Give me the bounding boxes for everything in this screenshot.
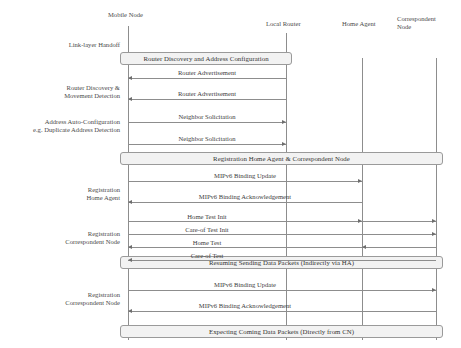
msg-neighbor-solicitation-2-label: Neighbor Solicitation bbox=[117, 135, 297, 142]
box-registration-ha-cn-label: Registration Home Agent & Correspondent … bbox=[213, 155, 350, 162]
msg-care-of-test-label: Care-of Test bbox=[117, 252, 297, 259]
box-expecting-data-label: Expecting Coming Data Packets (Directly … bbox=[209, 328, 354, 335]
lifeline-lr bbox=[286, 33, 287, 340]
msg-binding-update-ha-line bbox=[128, 181, 362, 182]
msg-care-of-test-init-label: Care-of Test Init bbox=[117, 226, 297, 233]
msg-router-advertisement-1-label: Router Advertisement bbox=[117, 69, 297, 76]
lifeline-header-mn: Mobile Node bbox=[108, 11, 143, 19]
msg-binding-update-cn-label: MIPv6 Binding Update bbox=[155, 281, 335, 288]
box-router-discovery: Router Discovery and Address Configurati… bbox=[120, 52, 292, 65]
msg-binding-update-cn-line bbox=[128, 290, 436, 291]
msg-binding-update-cn-arrowhead bbox=[432, 288, 436, 292]
msg-router-advertisement-2-line bbox=[128, 99, 286, 100]
box-registration-ha-cn: Registration Home Agent & Correspondent … bbox=[120, 152, 443, 165]
box-expecting-data: Expecting Coming Data Packets (Directly … bbox=[120, 325, 443, 338]
msg-neighbor-solicitation-1-line bbox=[128, 122, 286, 123]
msg-home-test-line bbox=[128, 247, 436, 248]
msg-care-of-test-line bbox=[128, 260, 436, 261]
box-router-discovery-label: Router Discovery and Address Configurati… bbox=[143, 55, 268, 62]
msg-home-test-init-arrowhead bbox=[358, 219, 362, 223]
msg-neighbor-solicitation-1-label: Neighbor Solicitation bbox=[117, 113, 297, 120]
msg-neighbor-solicitation-2-line bbox=[128, 144, 286, 145]
msg-binding-ack-ha-line bbox=[128, 202, 362, 203]
label-registration-correspondent-node-1: Registration Correspondent Node bbox=[8, 230, 120, 246]
msg-binding-update-ha-arrowhead bbox=[358, 179, 362, 183]
msg-neighbor-solicitation-2-arrowhead bbox=[282, 142, 286, 146]
label-link-layer-handoff: Link-layer Handoff bbox=[8, 41, 120, 49]
msg-care-of-test-init-line bbox=[128, 234, 436, 235]
msg-home-test-label: Home Test bbox=[117, 239, 297, 246]
msg-home-test-init-label: Home Test Init bbox=[117, 213, 297, 220]
lifeline-header-ha: Home Agent bbox=[342, 20, 376, 28]
label-address-autoconfig: Address Auto-Configuration e.g. Duplicat… bbox=[4, 118, 120, 134]
msg-binding-ack-ha-label: MIPv6 Binding Acknowledgement bbox=[155, 193, 335, 200]
msg-router-advertisement-1-arrowhead bbox=[128, 76, 132, 80]
msg-binding-update-ha-label: MIPv6 Binding Update bbox=[155, 172, 335, 179]
msg-home-test-init-line bbox=[128, 221, 436, 222]
msg-care-of-test-init-arrowhead bbox=[432, 232, 436, 236]
msg-router-advertisement-1-line bbox=[128, 78, 286, 79]
label-registration-home-agent: Registration Home Agent bbox=[8, 186, 120, 202]
label-registration-correspondent-node-2: Registration Correspondent Node bbox=[8, 291, 120, 307]
sequence-diagram: Mobile NodeLocal RouterHome AgentCorresp… bbox=[0, 0, 461, 348]
msg-router-advertisement-2-label: Router Advertisement bbox=[117, 90, 297, 97]
msg-binding-ack-ha-arrowhead bbox=[128, 200, 132, 204]
msg-router-advertisement-2-arrowhead bbox=[128, 97, 132, 101]
msg-neighbor-solicitation-1-arrowhead bbox=[282, 120, 286, 124]
msg-binding-ack-cn-arrowhead bbox=[128, 309, 132, 313]
msg-home-test-arrowhead bbox=[362, 245, 366, 249]
lifeline-ha bbox=[362, 58, 363, 340]
label-router-discovery: Router Discovery & Movement Detection bbox=[8, 84, 120, 100]
msg-binding-ack-cn-line bbox=[128, 311, 436, 312]
lifeline-header-cn: Correspondent Node bbox=[397, 15, 436, 31]
msg-binding-ack-cn-label: MIPv6 Binding Acknowledgement bbox=[155, 302, 335, 309]
lifeline-cn bbox=[436, 58, 437, 340]
lifeline-header-lr: Local Router bbox=[266, 20, 301, 28]
msg-home-test-init-arrowhead bbox=[432, 219, 436, 223]
